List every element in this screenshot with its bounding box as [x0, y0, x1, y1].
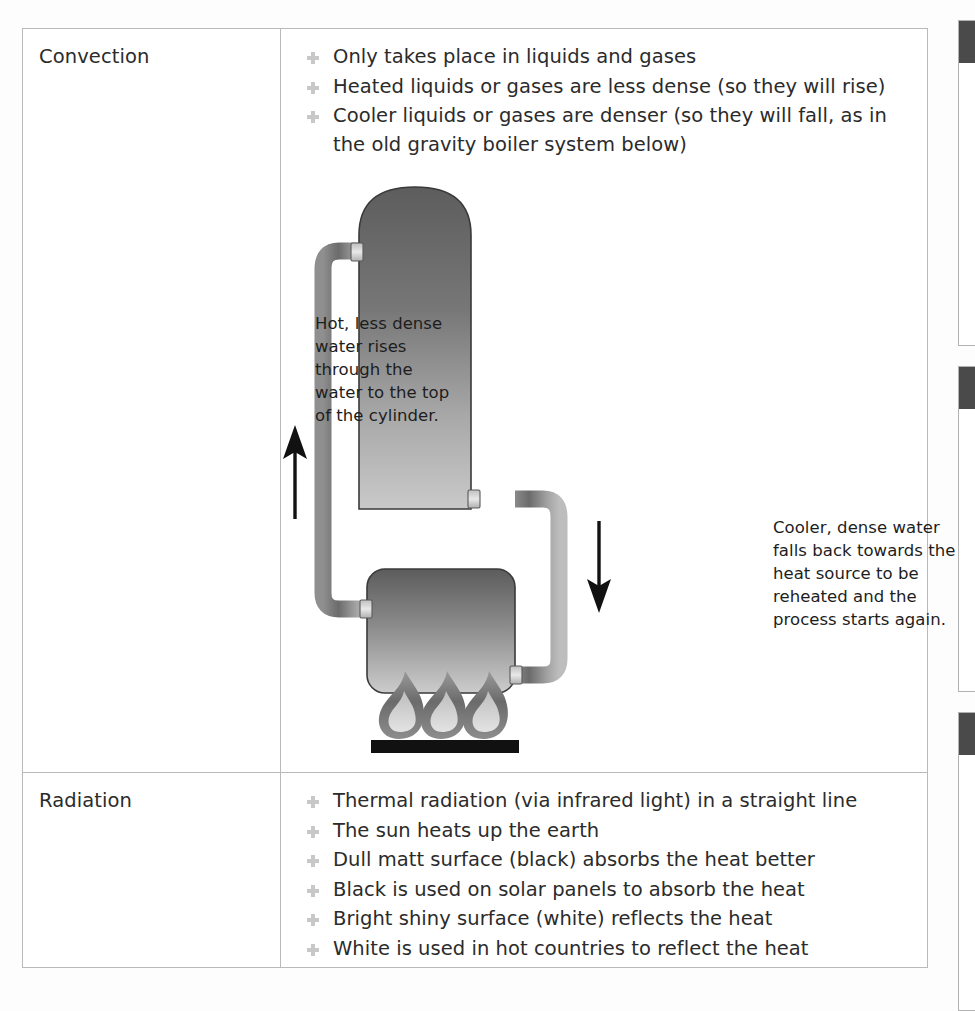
list-item-text: The sun heats up the earth — [333, 819, 599, 842]
boiler — [367, 569, 515, 693]
plus-bullet-icon — [307, 52, 319, 64]
edge-panel-header — [959, 367, 975, 409]
edge-panel-header — [959, 21, 975, 63]
table-row-radiation: Radiation Thermal radiation (via infrare… — [23, 773, 927, 968]
cylinder-top-collar — [351, 243, 363, 261]
list-item-text: Thermal radiation (via infrared light) i… — [333, 789, 857, 812]
list-item: The sun heats up the earth — [281, 817, 917, 846]
row-label-cell-radiation: Radiation — [23, 773, 281, 968]
list-item-text: White is used in hot countries to reflec… — [333, 937, 809, 960]
list-item-text: Dull matt surface (black) absorbs the he… — [333, 848, 815, 871]
list-item-text: Only takes place in liquids and gases — [333, 45, 696, 68]
plus-bullet-icon — [307, 826, 319, 838]
edge-panel-2 — [958, 366, 975, 692]
annotation-cool-water-falls: Cooler, dense water falls back towards t… — [773, 516, 965, 631]
burner-bar — [371, 740, 519, 753]
annotation-hot-water-rises: Hot, less dense water rises through the … — [315, 312, 465, 427]
list-item: Dull matt surface (black) absorbs the he… — [281, 846, 917, 875]
list-item: Thermal radiation (via infrared light) i… — [281, 787, 917, 816]
plus-bullet-icon — [307, 855, 319, 867]
list-item: Only takes place in liquids and gases — [281, 43, 917, 72]
list-item-text: Black is used on solar panels to absorb … — [333, 878, 805, 901]
plus-bullet-icon — [307, 111, 319, 123]
list-item: Black is used on solar panels to absorb … — [281, 876, 917, 905]
row-label-cell-convection: Convection — [23, 29, 281, 772]
boiler-right-collar — [510, 666, 522, 684]
plus-bullet-icon — [307, 82, 319, 94]
cylinder-bottom-collar — [468, 490, 480, 508]
plus-bullet-icon — [307, 885, 319, 897]
row-label-radiation: Radiation — [39, 789, 132, 812]
radiation-bullet-list: Thermal radiation (via infrared light) i… — [281, 787, 917, 963]
list-item-text: Cooler liquids or gases are denser (so t… — [333, 104, 887, 156]
row-body-cell-radiation: Thermal radiation (via infrared light) i… — [281, 773, 927, 968]
plus-bullet-icon — [307, 944, 319, 956]
edge-panel-1 — [958, 20, 975, 346]
up-arrow — [283, 425, 307, 519]
list-item: Heated liquids or gases are less dense (… — [281, 73, 917, 102]
plus-bullet-icon — [307, 796, 319, 808]
row-label-convection: Convection — [39, 45, 150, 68]
row-body-cell-convection: Only takes place in liquids and gases He… — [281, 29, 927, 772]
list-item: Cooler liquids or gases are denser (so t… — [281, 102, 917, 159]
list-item: Bright shiny surface (white) reflects th… — [281, 905, 917, 934]
edge-panel-header — [959, 713, 975, 755]
convection-bullet-list: Only takes place in liquids and gases He… — [281, 43, 917, 159]
down-arrow — [587, 521, 611, 613]
list-item: White is used in hot countries to reflec… — [281, 935, 917, 964]
gravity-boiler-convection-diagram: Hot, less dense water rises through the … — [281, 179, 929, 769]
edge-panel-3 — [958, 712, 975, 1011]
boiler-left-collar — [360, 600, 372, 618]
boiler-system-illustration — [281, 179, 929, 769]
heat-transfer-table: Convection Only takes place in liquids a… — [22, 28, 928, 968]
list-item-text: Heated liquids or gases are less dense (… — [333, 75, 885, 98]
list-item-text: Bright shiny surface (white) reflects th… — [333, 907, 773, 930]
return-pipe — [513, 499, 559, 675]
plus-bullet-icon — [307, 914, 319, 926]
table-row-convection: Convection Only takes place in liquids a… — [23, 29, 927, 773]
